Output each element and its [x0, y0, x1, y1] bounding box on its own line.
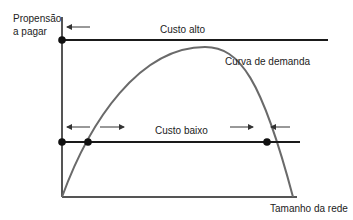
x-axis-label: Tamanho da rede [270, 203, 348, 215]
y-axis-label-line2: a pagar [13, 26, 47, 38]
low-cost-label: Custo baixo [155, 125, 208, 137]
high-cost-label: Custo alto [160, 24, 205, 36]
y-axis-label-line1: Propensão [13, 13, 61, 25]
low-cost-zero-dot [58, 138, 66, 146]
low-cost-tipping-dot [84, 138, 92, 146]
low-cost-stable-dot [263, 138, 271, 146]
demand-curve-label: Curva de demanda [225, 56, 310, 68]
demand-curve [62, 47, 293, 197]
high-cost-equilibrium-dot [58, 36, 66, 44]
